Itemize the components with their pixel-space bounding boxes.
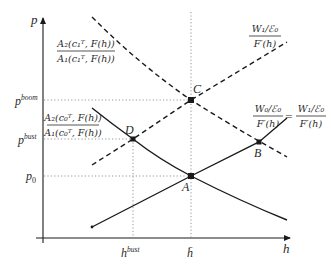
point-b-marker [257,140,262,145]
svg-text:A₁(c₀ᵀ, F(h)): A₁(c₀ᵀ, F(h)) [43,127,102,138]
y-tick-p-bust: pbust [17,132,37,147]
svg-text:pbust: pbust [17,132,37,147]
svg-text:h̄: h̄ [187,246,193,260]
label-upper-ratio: A₂(c₁ᵀ, F(h)) A₁(c₁ᵀ, F(h)) [56,38,115,64]
x-tick-h-bust: hbust [121,245,140,260]
point-label-d: D [124,123,134,137]
svg-text:=: = [285,111,293,122]
point-label-c: C [193,82,202,96]
svg-text:F′(h): F′(h) [253,38,277,49]
label-lower-ratio: A₂(c₀ᵀ, F(h)) A₁(c₀ᵀ, F(h)) [43,112,102,138]
x-tick-h-bar: h̄ [187,246,193,260]
point-a-marker [188,173,194,179]
svg-text:F′(h): F′(h) [256,118,280,129]
label-w1-curve: W₁/ℰ₀ F′(h) [249,23,281,49]
x-axis-label: h [283,241,290,256]
solid-curve-endpoint [91,226,94,229]
point-d-marker [131,137,136,142]
label-w0-equals-w1: W₀/ℰ₀ F′(h) = W₁/ℰ₀ F′(h) [253,103,326,129]
svg-text:hbust: hbust [121,245,140,260]
y-tick-p0: p0 [25,169,36,185]
svg-text:F′(h): F′(h) [299,118,323,129]
point-label-a: A [181,180,190,194]
svg-text:W₀/ℰ₀: W₀/ℰ₀ [255,103,282,114]
point-c-marker [188,97,194,103]
solid-increasing-curve [92,118,287,227]
y-axis-label: p [30,12,38,27]
svg-text:W₁/ℰ₀: W₁/ℰ₀ [252,23,279,34]
diagram-canvas: C A D B p h pboom pbust p0 hbust h̄ A₂(c… [0,0,331,267]
svg-text:A₁(c₁ᵀ, F(h)): A₁(c₁ᵀ, F(h)) [56,53,115,64]
point-label-b: B [254,146,262,160]
y-tick-p-boom: pboom [14,93,38,108]
svg-text:pboom: pboom [14,93,38,108]
svg-text:A₂(c₀ᵀ, F(h)): A₂(c₀ᵀ, F(h)) [43,112,102,123]
svg-text:W₁/ℰ₀: W₁/ℰ₀ [298,103,325,114]
svg-text:A₂(c₁ᵀ, F(h)): A₂(c₁ᵀ, F(h)) [56,38,115,49]
svg-text:p0: p0 [25,169,36,185]
